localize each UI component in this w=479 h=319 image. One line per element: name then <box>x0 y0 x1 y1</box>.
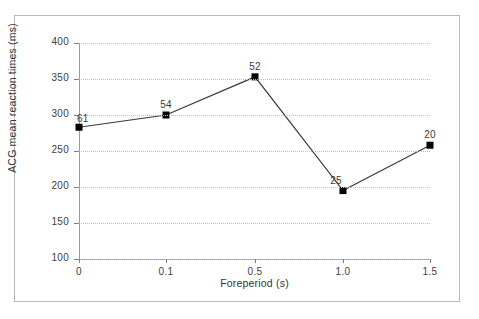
y-tick-label: 200 <box>39 180 69 191</box>
plot-area <box>79 43 430 259</box>
x-tick-label: 0 <box>59 266 99 277</box>
data-point-marker <box>427 142 434 149</box>
y-tick-label: 250 <box>39 144 69 155</box>
gridline-y <box>79 151 430 152</box>
y-tick-label: 350 <box>39 72 69 83</box>
gridline-y <box>79 79 430 80</box>
x-tick-mark <box>166 259 167 263</box>
data-point-label: 25 <box>321 175 351 186</box>
data-point-marker <box>340 187 347 194</box>
gridline-y <box>79 187 430 188</box>
y-tick-label: 300 <box>39 108 69 119</box>
data-point-label: 61 <box>77 113 107 124</box>
gridline-y <box>79 115 430 116</box>
gridline-y <box>79 223 430 224</box>
y-tick-mark <box>74 151 79 152</box>
series-polyline <box>79 77 430 191</box>
y-tick-label: 400 <box>39 36 69 47</box>
data-point-label: 52 <box>240 61 270 72</box>
data-point-label: 20 <box>415 129 445 140</box>
y-tick-mark <box>74 187 79 188</box>
y-tick-mark <box>74 79 79 80</box>
gridline-y <box>79 43 430 44</box>
x-tick-label: 0.5 <box>235 266 275 277</box>
x-tick-mark <box>430 259 431 263</box>
x-tick-label: 1.0 <box>323 266 363 277</box>
x-tick-mark <box>343 259 344 263</box>
y-tick-label: 150 <box>39 216 69 227</box>
x-tick-label: 1.5 <box>410 266 450 277</box>
y-tick-label: 100 <box>39 252 69 263</box>
y-axis-title: ACG mean reaction times (ms) <box>6 0 18 198</box>
x-tick-label: 0.1 <box>146 266 186 277</box>
y-tick-mark <box>74 223 79 224</box>
x-tick-mark <box>255 259 256 263</box>
data-point-marker <box>76 124 83 131</box>
x-axis-title: Foreperiod (s) <box>79 277 430 289</box>
data-point-label: 54 <box>151 99 181 110</box>
y-tick-mark <box>74 43 79 44</box>
x-tick-mark <box>79 259 80 263</box>
figure-canvas: ACG mean reaction times (ms) Foreperiod … <box>0 0 479 319</box>
